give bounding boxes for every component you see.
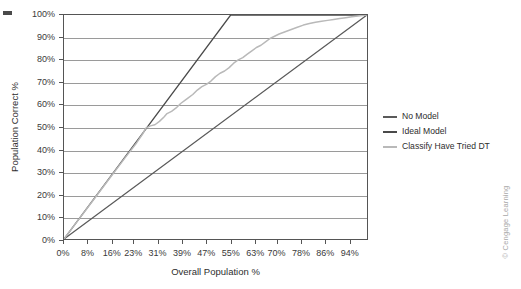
legend: No ModelIdeal ModelClassify Have Tried D… bbox=[383, 110, 513, 155]
x-tick-label: 31% bbox=[149, 249, 167, 258]
y-tick-label: 40% bbox=[37, 145, 55, 154]
x-tick-mark bbox=[63, 240, 64, 244]
legend-line-icon bbox=[383, 131, 397, 133]
figure-container: 0%10%20%30%40%50%60%70%80%90%100% 0%8%16… bbox=[0, 0, 521, 289]
plot-area bbox=[63, 14, 368, 240]
y-tick-label: 70% bbox=[37, 77, 55, 86]
x-tick-mark bbox=[182, 240, 183, 244]
y-tick-label: 50% bbox=[37, 123, 55, 132]
series-line bbox=[64, 15, 367, 239]
y-tick-label: 60% bbox=[37, 100, 55, 109]
x-tick-mark bbox=[206, 240, 207, 244]
series-layer bbox=[64, 15, 367, 239]
x-tick-mark bbox=[255, 240, 256, 244]
x-tick-label: 16% bbox=[103, 249, 121, 258]
x-axis-title: Overall Population % bbox=[63, 266, 368, 277]
legend-label: Ideal Model bbox=[402, 127, 446, 136]
x-tick-mark bbox=[112, 240, 113, 244]
x-tick-label: 78% bbox=[292, 249, 310, 258]
x-tick-mark bbox=[325, 240, 326, 244]
x-axis: 0%8%16%23%31%39%47%55%63%70%78%86%94% bbox=[63, 240, 368, 266]
x-tick-mark bbox=[158, 240, 159, 244]
legend-item[interactable]: Ideal Model bbox=[383, 125, 513, 138]
legend-line-icon bbox=[383, 146, 397, 148]
x-tick-label: 47% bbox=[197, 249, 215, 258]
y-tick-label: 100% bbox=[32, 10, 55, 19]
x-tick-mark bbox=[133, 240, 134, 244]
x-tick-mark bbox=[301, 240, 302, 244]
x-tick-label: 8% bbox=[81, 249, 94, 258]
legend-line-icon bbox=[383, 116, 397, 118]
x-tick-mark bbox=[231, 240, 232, 244]
y-tick-label: 20% bbox=[37, 190, 55, 199]
legend-item[interactable]: No Model bbox=[383, 110, 513, 123]
x-tick-label: 23% bbox=[124, 249, 142, 258]
x-tick-label: 39% bbox=[173, 249, 191, 258]
legend-label: No Model bbox=[402, 112, 439, 121]
legend-label: Classify Have Tried DT bbox=[402, 142, 490, 151]
legend-item[interactable]: Classify Have Tried DT bbox=[383, 140, 513, 153]
x-tick-label: 86% bbox=[316, 249, 334, 258]
y-axis-title: Population Correct % bbox=[9, 82, 20, 172]
x-tick-label: 70% bbox=[267, 249, 285, 258]
copyright-watermark: © Cengage Learning bbox=[501, 186, 510, 259]
x-tick-mark bbox=[350, 240, 351, 244]
y-tick-label: 0% bbox=[42, 236, 55, 245]
y-tick-label: 80% bbox=[37, 55, 55, 64]
x-tick-label: 55% bbox=[222, 249, 240, 258]
y-tick-label: 30% bbox=[37, 168, 55, 177]
x-tick-label: 0% bbox=[56, 249, 69, 258]
y-tick-label: 90% bbox=[37, 32, 55, 41]
x-tick-mark bbox=[277, 240, 278, 244]
x-tick-label: 63% bbox=[246, 249, 264, 258]
x-tick-mark bbox=[87, 240, 88, 244]
y-tick-label: 10% bbox=[37, 213, 55, 222]
x-tick-label: 94% bbox=[341, 249, 359, 258]
